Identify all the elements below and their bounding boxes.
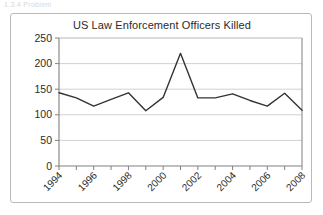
chart-frame: US Law Enforcement Officers Killed 05010…: [10, 13, 312, 203]
y-axis-tick-label: 0: [46, 160, 52, 172]
line-chart: 0501001502002501994199619982000200220042…: [11, 14, 313, 204]
y-axis-tick-label: 150: [34, 83, 52, 95]
x-axis-tick-label: 2002: [180, 169, 204, 193]
x-axis-tick-label: 2004: [214, 169, 238, 193]
x-axis-tick-label: 1996: [76, 169, 100, 193]
y-axis-tick-label: 200: [34, 57, 52, 69]
x-axis-tick-label: 2008: [284, 169, 308, 193]
page-top-text-fragment: 1.3.4 Problem: [4, 0, 51, 9]
x-axis-tick-label: 2000: [145, 169, 169, 193]
x-axis-tick-label: 1994: [41, 169, 65, 193]
y-axis-tick-label: 100: [34, 108, 52, 120]
x-axis-tick-label: 1998: [110, 169, 134, 193]
x-axis-tick-label: 2006: [249, 169, 273, 193]
y-axis-tick-label: 50: [40, 134, 52, 146]
data-series-line: [59, 53, 302, 110]
y-axis-tick-label: 250: [34, 32, 52, 44]
